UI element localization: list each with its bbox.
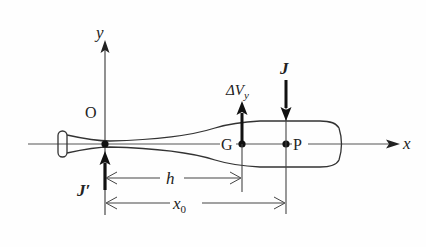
x0-dimension — [106, 197, 285, 209]
diagram-svg: y O x G P ΔVy J J′ h x0 — [0, 0, 426, 247]
point-g-label: G — [221, 136, 233, 153]
delta-v-label: ΔVy — [225, 82, 249, 101]
x-axis-label: x — [402, 134, 411, 153]
point-p-label: P — [293, 136, 302, 153]
delta-v-arrowhead-icon — [237, 101, 248, 115]
bat-impulse-diagram: y O x G P ΔVy J J′ h x0 — [0, 0, 426, 247]
impulse-j-prime-label: J′ — [76, 181, 90, 200]
h-label: h — [166, 169, 175, 188]
impulse-j-prime-arrow — [100, 151, 111, 190]
impulse-j-label: J — [279, 59, 289, 78]
impulse-j-arrow — [281, 80, 292, 121]
x0-label: x0 — [172, 194, 187, 215]
origin-label: O — [85, 104, 97, 121]
origin-point — [101, 140, 108, 147]
x-axis — [28, 140, 400, 149]
y-axis-label: y — [94, 23, 104, 42]
